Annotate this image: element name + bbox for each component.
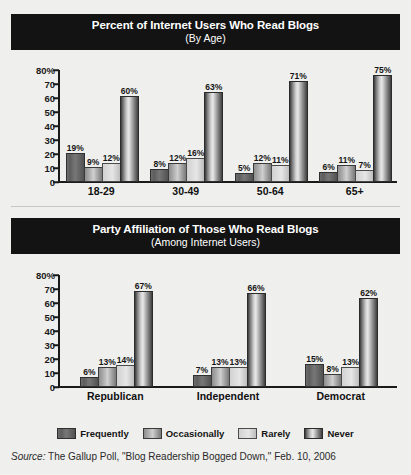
chart1-barlabel-frequently-4: 6% [323, 163, 335, 172]
chart2-category-label-democrat: Democrat [284, 390, 397, 402]
chart2-group-independent: 7%13%13%66% [193, 275, 264, 387]
chart1-bar-never-4: 75% [373, 75, 392, 182]
chart2-tickmark-40 [53, 330, 59, 332]
chart1-ytick-20: 20 [19, 150, 55, 159]
chart1-barlabel-frequently-2: 8% [154, 160, 166, 169]
chart1-tickmark-70 [53, 83, 59, 85]
source-label: Source: [11, 451, 45, 462]
chart1-bar-rarely-4: 7% [355, 170, 374, 182]
chart2-ytick-60: 60 [19, 299, 55, 308]
chart2-barlabel-never-2: 66% [247, 284, 264, 293]
chart1-group-18-29: 19%9%12%60% [66, 70, 137, 182]
chart1-category-label-18-29: 18-29 [59, 185, 144, 197]
chart1-tickmark-80 [53, 69, 59, 71]
chart2-tickmark-70 [53, 288, 59, 290]
chart1-bar-occasionally-1: 9% [84, 167, 103, 182]
chart2-category-label-independent: Independent [172, 390, 285, 402]
chart1-category-label-30-49: 30-49 [144, 185, 229, 197]
chart1-tickmark-0 [53, 181, 59, 183]
source-text: The Gallup Poll, "Blog Readership Bogged… [45, 451, 335, 462]
chart1-tickmark-10 [53, 167, 59, 169]
chart1-barlabel-occasionally-1: 9% [87, 158, 99, 167]
chart2-ytick-10: 10 [19, 369, 55, 378]
chart1-bar-never-1: 60% [120, 96, 139, 182]
chart1-tickmark-50 [53, 111, 59, 113]
chart2-ytick-70: 70 [19, 285, 55, 294]
chart2-barlabel-rarely-2: 13% [229, 358, 246, 367]
section-divider [11, 206, 400, 207]
chart1-barlabel-never-4: 75% [374, 66, 391, 75]
chart1-ytick-50: 50 [19, 108, 55, 117]
chart1-barlabel-occasionally-3: 12% [254, 154, 271, 163]
chart1-ytick-0: 0 [19, 178, 55, 187]
chart2-title-banner: Party Affiliation of Those Who Read Blog… [11, 218, 400, 254]
chart1-barlabel-rarely-1: 12% [103, 154, 120, 163]
chart1-title-banner: Percent of Internet Users Who Read Blogs… [11, 14, 400, 50]
chart1-bar-occasionally-4: 11% [337, 165, 356, 182]
legend-label-rarely: Rarely [261, 428, 290, 439]
legend-item-frequently: Frequently [57, 424, 129, 442]
chart2-tickmark-20 [53, 358, 59, 360]
legend-item-rarely: Rarely [238, 424, 290, 442]
occasionally-swatch [143, 428, 162, 439]
chart1-tickmark-60 [53, 97, 59, 99]
chart1-plot: 80%706050403020100 19%9%12%60%18-298%12%… [0, 70, 411, 198]
chart1-category-label-65-: 65+ [313, 185, 398, 197]
chart2-tickmark-0 [53, 386, 59, 388]
chart1-barlabel-never-1: 60% [121, 87, 138, 96]
chart2-barlabel-occasionally-1: 13% [99, 358, 116, 367]
chart1-ytick-60: 60 [19, 94, 55, 103]
chart2-ytick-30: 30 [19, 341, 55, 350]
chart1-barlabel-occasionally-2: 12% [169, 154, 186, 163]
chart1-bar-frequently-2: 8% [150, 169, 169, 182]
chart2-bar-occasionally-1: 13% [98, 367, 117, 387]
chart2-barlabel-frequently-1: 6% [83, 368, 95, 377]
chart1-bar-rarely-1: 12% [102, 163, 121, 182]
chart2-barlabel-never-1: 67% [135, 282, 152, 291]
chart2-ytick-20: 20 [19, 355, 55, 364]
chart1-barlabel-frequently-1: 19% [67, 144, 84, 153]
chart2-barlabel-occasionally-3: 8% [327, 365, 339, 374]
rarely-swatch [238, 428, 257, 439]
chart2-tickmark-30 [53, 344, 59, 346]
chart2-ytick-0: 0 [19, 383, 55, 392]
chart1-bar-occasionally-3: 12% [253, 163, 272, 182]
chart1-barlabel-never-3: 71% [290, 72, 307, 81]
chart1-bar-rarely-2: 16% [186, 158, 205, 182]
chart1-y-axis: 80%706050403020100 [19, 70, 55, 182]
frequently-swatch [57, 428, 76, 439]
chart2-barlabel-occasionally-2: 13% [211, 358, 228, 367]
chart2-bar-never-1: 67% [134, 291, 153, 387]
chart2-bar-never-3: 62% [359, 298, 378, 387]
chart2-category-label-republican: Republican [59, 390, 172, 402]
chart1-ytick-80: 80% [19, 66, 55, 75]
chart2-bar-frequently-1: 6% [80, 377, 99, 387]
chart1-bar-rarely-3: 11% [271, 165, 290, 182]
chart2-y-axis: 80%706050403020100 [19, 275, 55, 387]
chart1-bars-area: 19%9%12%60%18-298%12%16%63%30-495%12%11%… [59, 70, 397, 182]
chart1-barlabel-occasionally-4: 11% [338, 156, 355, 165]
chart2-bar-occasionally-2: 13% [211, 367, 230, 387]
chart1-bar-never-2: 63% [204, 92, 223, 182]
chart2-ytick-80: 80% [19, 271, 55, 280]
chart2-group-democrat: 15%8%13%62% [305, 275, 376, 387]
chart2-title: Party Affiliation of Those Who Read Blog… [11, 222, 400, 236]
chart2-subtitle: (Among Internet Users) [11, 236, 400, 249]
chart1-barlabel-rarely-3: 11% [272, 156, 289, 165]
chart2-barlabel-never-3: 62% [360, 289, 377, 298]
chart1-subtitle: (By Age) [11, 32, 400, 45]
chart2-tickmark-50 [53, 316, 59, 318]
chart1-barlabel-rarely-2: 16% [187, 149, 204, 158]
chart1-bar-frequently-4: 6% [319, 172, 338, 182]
chart1-ytick-30: 30 [19, 136, 55, 145]
chart2-barlabel-frequently-3: 15% [306, 355, 323, 364]
chart2-ytick-50: 50 [19, 313, 55, 322]
chart1-bar-occasionally-2: 12% [168, 163, 187, 182]
legend-label-frequently: Frequently [80, 428, 129, 439]
chart1-ytick-70: 70 [19, 80, 55, 89]
chart1-tickmark-20 [53, 153, 59, 155]
chart1-group-50-64: 5%12%11%71% [235, 70, 306, 182]
chart2-tickmark-60 [53, 302, 59, 304]
chart1-panel: 80%706050403020100 19%9%12%60%18-298%12%… [0, 70, 411, 198]
infographic-page: Percent of Internet Users Who Read Blogs… [0, 0, 411, 475]
